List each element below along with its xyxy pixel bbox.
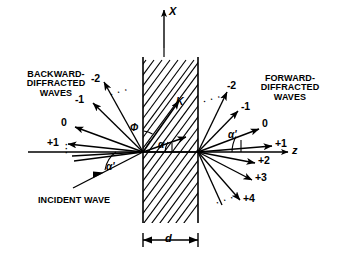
figure-vector-canvas: [0, 0, 337, 265]
forward-ray-plus3: [198, 152, 252, 180]
x-axis-label: X: [169, 6, 176, 18]
thickness-arrow-right: [189, 237, 198, 244]
backward-order-0-label: 0: [61, 117, 67, 128]
thickness-arrow-left: [143, 237, 152, 244]
thickness-label: d: [165, 233, 172, 245]
diffraction-grating-figure: X z BACKWARD-DIFFRACTEDWAVES FORWARD-DIF…: [0, 0, 337, 265]
internal-angle-label: α: [158, 140, 164, 151]
incident-wave-arrowhead: [93, 172, 104, 179]
forward-diffracted-waves-label: FORWARD-DIFFRACTEDWAVES: [248, 74, 332, 102]
grating-vector-K-label: K: [176, 96, 184, 107]
forward-order-plus4-label: +4: [243, 193, 255, 204]
backward-order-minus2-label: -2: [91, 73, 100, 84]
incident-wave-label: INCIDENT WAVE: [38, 196, 138, 205]
forward-diffracted-rays: [198, 92, 272, 205]
z-axis-label: z: [292, 145, 298, 157]
forward-ray-plus1: [198, 146, 272, 152]
forward-order-plus2-label: +2: [258, 155, 270, 166]
forward-angle-label: α': [228, 130, 237, 141]
forward-order-minus2-label: -2: [227, 80, 236, 91]
backward-lower-ellipsis: ···: [65, 143, 68, 155]
forward-order-0-label: 0: [262, 118, 268, 129]
forward-order-minus1-label: -1: [241, 101, 250, 112]
forward-order-plus1-label: +1: [275, 138, 287, 149]
phi-angle-arc: [144, 131, 153, 134]
incident-angle-label: α': [106, 162, 115, 173]
grating-slant-angle-label: Φ: [130, 123, 138, 134]
backward-order-plus1-label: +1: [47, 137, 59, 148]
backward-diffracted-waves-label: BACKWARD-DIFFRACTEDWAVES: [12, 70, 100, 98]
forward-order-plus3-label: +3: [255, 172, 267, 183]
backward-order-minus1-label: -1: [75, 94, 84, 105]
